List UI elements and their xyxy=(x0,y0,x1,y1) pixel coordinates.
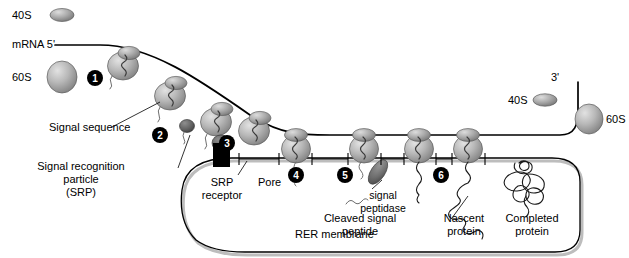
step-badge-2: 2 xyxy=(152,127,168,143)
step-badge-6: 6 xyxy=(433,167,449,183)
srp-label-line2: particle xyxy=(63,173,98,185)
legend-60s-right: 60S xyxy=(575,104,626,134)
signal-peptidase-label-line1: signal xyxy=(369,189,396,201)
srp-bound-chain xyxy=(183,132,185,144)
srp-label-line1: Signal recognition xyxy=(37,160,124,172)
legend-40s-right: 40S xyxy=(508,94,557,106)
srp-particle-body xyxy=(180,120,195,133)
srp-receptor-label-line2: receptor xyxy=(202,189,243,201)
completed-protein-label-line1: Completed xyxy=(505,212,558,224)
rer-membrane-label: RER membrane xyxy=(295,228,374,240)
legend-40s-left-label: 40S xyxy=(12,9,32,21)
nascent-chain-2 xyxy=(158,107,160,122)
cleaved-peptide-label-line1: Cleaved signal xyxy=(324,212,396,224)
step-badge-1: 1 xyxy=(87,70,103,86)
srp-label-line3: (SRP) xyxy=(66,186,96,198)
mrna-5prime: mRNA 5' xyxy=(12,38,55,50)
mrna-5prime-label: mRNA 5' xyxy=(12,38,55,50)
nascent-protein-label-line1: Nascent xyxy=(444,212,484,224)
pore-label: Pore xyxy=(258,176,281,188)
ribosome-step6 xyxy=(454,129,483,163)
nascent-protein-label-line2: protein xyxy=(447,225,481,237)
srp-particle xyxy=(180,120,195,145)
step-badge-3: 3 xyxy=(219,135,235,151)
legend-40s-right-label: 40S xyxy=(508,94,528,106)
step-badge-5-label: 5 xyxy=(342,170,348,181)
step-badge-4-label: 4 xyxy=(293,170,299,181)
large-subunit-icon-right xyxy=(575,104,603,134)
legend-60s-left-label: 60S xyxy=(12,71,32,83)
diagram-canvas: 40S mRNA 5' 60S 40S 60S 3' xyxy=(0,0,629,258)
step-badge-5: 5 xyxy=(337,167,353,183)
small-subunit-icon xyxy=(50,9,74,22)
ribosome-step1 xyxy=(108,46,141,89)
ribosome-step3b xyxy=(239,111,272,145)
step-badge-1-label: 1 xyxy=(92,73,98,84)
signal-sequence-label: Signal sequence xyxy=(49,121,130,133)
nascent-chain-1 xyxy=(110,76,112,89)
small-subunit-icon-right xyxy=(533,94,557,106)
mrna-3prime-label: 3' xyxy=(551,71,559,83)
legend-60s-right-label: 60S xyxy=(606,113,626,125)
ribosome-step2 xyxy=(155,76,188,122)
legend-60s-left: 60S xyxy=(12,61,77,93)
completed-protein-label-line2: protein xyxy=(515,225,549,237)
nascent-protein-label-group: Nascent protein xyxy=(444,212,484,237)
srp-receptor-label-line1: SRP xyxy=(211,176,234,188)
step-badge-3-label: 3 xyxy=(224,138,230,149)
srp-label-group: Signal recognition particle (SRP) xyxy=(37,160,124,198)
protein-translocation-diagram: 40S mRNA 5' 60S 40S 60S 3' xyxy=(0,0,629,258)
step-badge-6-label: 6 xyxy=(438,170,444,181)
nascent-chain-3 xyxy=(205,134,207,149)
large-subunit-icon xyxy=(47,61,77,93)
step-badge-2-label: 2 xyxy=(157,130,163,141)
legend-40s-left: 40S xyxy=(12,9,74,22)
step-badge-4: 4 xyxy=(288,167,304,183)
